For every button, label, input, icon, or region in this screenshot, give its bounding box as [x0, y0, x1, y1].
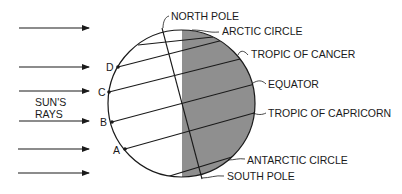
point-b-label: B [100, 116, 107, 128]
label-antarctic-circle: ANTARCTIC CIRCLE [247, 154, 348, 166]
sun-rays-label-line1: SUN'S [35, 96, 66, 108]
label-arctic-circle: ARCTIC CIRCLE [222, 25, 303, 37]
point-b-dot [110, 120, 114, 124]
point-d-label: D [106, 61, 114, 73]
label-tropic-of-cancer: TROPIC OF CANCER [251, 48, 356, 60]
leader-south-pole [202, 176, 224, 178]
label-south-pole: SOUTH POLE [227, 170, 295, 182]
label-tropic-of-capricorn: TROPIC OF CAPRICORN [268, 107, 391, 119]
leader-equator [253, 81, 266, 84]
label-north-pole: NORTH POLE [171, 10, 239, 22]
earth-sun-diagram: SUN'S RAYS D C B A [0, 0, 402, 194]
label-equator: EQUATOR [268, 78, 319, 90]
leader-tropic-cancer [238, 51, 248, 55]
sun-rays-label-line2: RAYS [35, 108, 63, 120]
point-d-dot [116, 65, 120, 69]
point-a-dot [123, 147, 127, 151]
point-c-label: C [98, 86, 106, 98]
point-c-dot [107, 90, 111, 94]
point-a-label: A [113, 144, 120, 156]
leader-north-pole [163, 16, 169, 28]
